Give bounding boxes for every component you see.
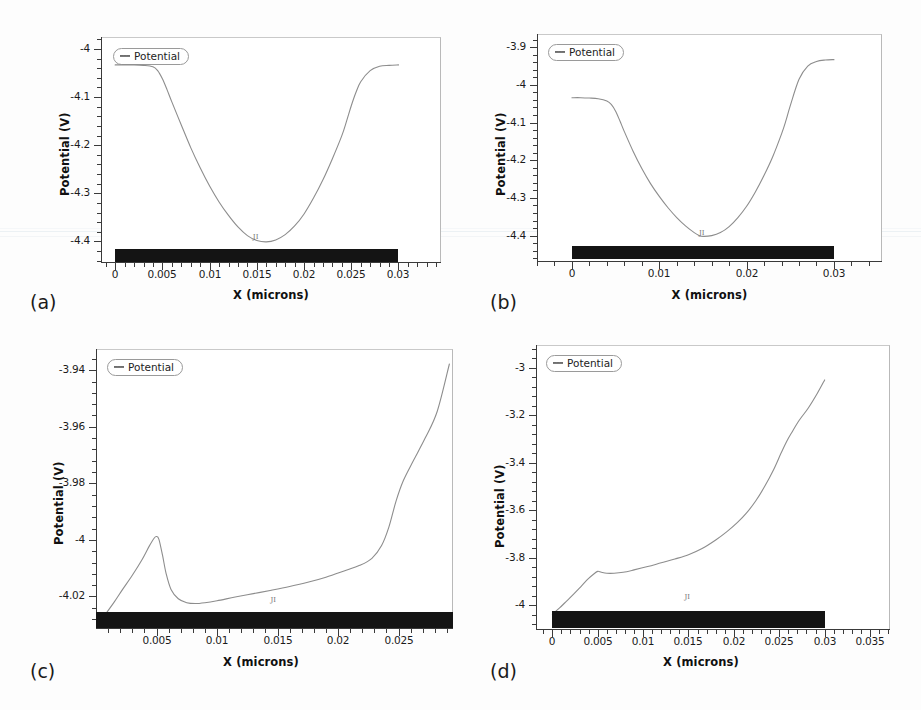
y-tick-minor-c (92, 529, 96, 530)
legend-line-swatch-icon (555, 51, 565, 53)
y-tick-minor-c (92, 619, 96, 620)
legend-label-a: Potential (134, 50, 180, 62)
x-tick-minor-d (725, 630, 726, 634)
x-tick-minor-c (132, 629, 133, 633)
x-tick-minor-d (888, 630, 889, 634)
y-tick-minor-b (533, 190, 537, 191)
x-tick-minor-c (193, 629, 194, 633)
x-tick-minor-d (561, 630, 562, 634)
channel-micro-label-b: JI (699, 229, 705, 237)
plot-frame-b (537, 34, 882, 262)
y-tick-minor-a (97, 203, 101, 204)
x-tick-minor-b (729, 262, 730, 266)
y-tick-minor-a (97, 155, 101, 156)
x-tick-minor-d (843, 630, 844, 634)
legend-d[interactable]: Potential (546, 355, 622, 372)
x-tick-minor-c (169, 629, 170, 633)
x-tick-minor-d (707, 630, 708, 634)
y-tick-minor-d (532, 577, 536, 578)
legend-label-d: Potential (567, 357, 613, 369)
y-tick-minor-b (533, 40, 537, 41)
x-tick-minor-c (144, 629, 145, 633)
x-tick-minor-b (589, 262, 590, 266)
y-tick-minor-b (533, 213, 537, 214)
y-tick-major-b (530, 236, 537, 237)
panel-caption-c: (c) (30, 660, 55, 682)
y-tick-major-b (530, 123, 537, 124)
y-tick-minor-b (533, 115, 537, 116)
x-tick-minor-b (694, 262, 695, 266)
x-tick-minor-c (265, 629, 266, 633)
y-tick-major-c (89, 596, 96, 597)
x-axis-a (101, 262, 441, 263)
y-tick-minor-b (533, 243, 537, 244)
x-tick-minor-a (229, 263, 230, 267)
legend-c[interactable]: Potential (107, 359, 183, 376)
y-tick-label-d: -4 (484, 598, 525, 610)
y-tick-minor-d (532, 349, 536, 350)
y-tick-minor-c (92, 472, 96, 473)
x-tick-label-b: 0.02 (717, 267, 777, 279)
y-tick-minor-b (533, 107, 537, 108)
x-tick-minor-d (770, 630, 771, 634)
y-tick-minor-b (533, 70, 537, 71)
y-tick-minor-d (532, 406, 536, 407)
y-tick-minor-c (92, 461, 96, 462)
y-tick-major-d (529, 415, 536, 416)
y-tick-major-b (530, 47, 537, 48)
x-tick-minor-d (543, 630, 544, 634)
x-tick-minor-b (782, 262, 783, 266)
x-tick-minor-a (314, 263, 315, 267)
x-tick-minor-d (580, 630, 581, 634)
y-tick-minor-b (533, 145, 537, 146)
y-tick-minor-b (533, 100, 537, 101)
y-tick-label-d: -3 (484, 361, 525, 373)
x-tick-minor-d (716, 630, 717, 634)
x-tick-minor-d (834, 630, 835, 634)
figure-page: Potential (V) X (microns) Potential JI (… (0, 0, 921, 710)
y-tick-minor-c (92, 585, 96, 586)
x-tick-minor-d (852, 630, 853, 634)
legend-label-c: Potential (128, 361, 174, 373)
x-tick-minor-a (106, 263, 107, 267)
y-tick-major-a (94, 241, 101, 242)
y-tick-minor-d (532, 520, 536, 521)
y-tick-minor-c (92, 359, 96, 360)
x-tick-minor-a (361, 263, 362, 267)
y-tick-major-a (94, 49, 101, 50)
y-tick-major-d (529, 510, 536, 511)
x-tick-minor-c (314, 629, 315, 633)
x-tick-minor-d (616, 630, 617, 634)
y-tick-minor-c (92, 393, 96, 394)
y-tick-minor-c (92, 506, 96, 507)
legend-a[interactable]: Potential (113, 48, 189, 65)
y-tick-label-b: -4.3 (485, 191, 526, 203)
plot-frame-c (96, 349, 453, 629)
x-tick-minor-a (134, 263, 135, 267)
device-bar-a (115, 249, 398, 262)
x-tick-label-d: 0.035 (840, 635, 900, 647)
x-tick-minor-c (374, 629, 375, 633)
channel-micro-label-d: JI (684, 593, 690, 601)
device-bar-b (572, 246, 834, 259)
y-tick-major-b (530, 85, 537, 86)
x-tick-minor-d (797, 630, 798, 634)
legend-b[interactable]: Potential (548, 44, 624, 61)
y-tick-minor-c (92, 495, 96, 496)
y-tick-minor-b (533, 77, 537, 78)
y-tick-minor-b (533, 205, 537, 206)
y-tick-minor-d (532, 624, 536, 625)
y-tick-minor-b (533, 130, 537, 131)
plot-frame-d (536, 345, 890, 630)
y-tick-minor-a (97, 59, 101, 60)
legend-line-swatch-icon (120, 55, 130, 57)
y-tick-label-b: -4.1 (485, 116, 526, 128)
y-tick-major-a (94, 193, 101, 194)
x-tick-minor-c (423, 629, 424, 633)
x-tick-minor-b (554, 262, 555, 266)
x-tick-minor-d (661, 630, 662, 634)
x-tick-label-a: 0.03 (368, 268, 428, 280)
x-axis-title-c: X (microns) (96, 655, 426, 669)
x-tick-label-c: 0.02 (308, 634, 368, 646)
y-tick-minor-a (97, 87, 101, 88)
